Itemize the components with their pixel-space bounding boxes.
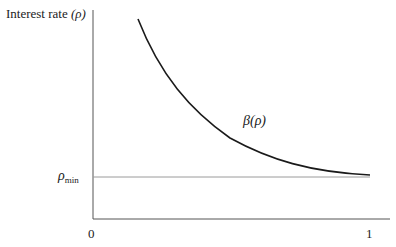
rho-min-subscript: min <box>65 175 79 185</box>
x-tick-1: 1 <box>366 226 373 242</box>
y-axis-symbol: (ρ) <box>71 6 86 21</box>
y-axis-label: Interest rate (ρ) <box>6 6 86 22</box>
curve-label: β(ρ) <box>243 113 266 129</box>
x-tick-0: 0 <box>88 226 95 242</box>
rho-symbol: ρ <box>58 168 65 183</box>
beta-curve <box>138 19 370 175</box>
y-axis-label-text: Interest rate <box>6 6 68 21</box>
diagram-canvas <box>0 0 396 247</box>
rho-min-label: ρmin <box>58 168 79 184</box>
